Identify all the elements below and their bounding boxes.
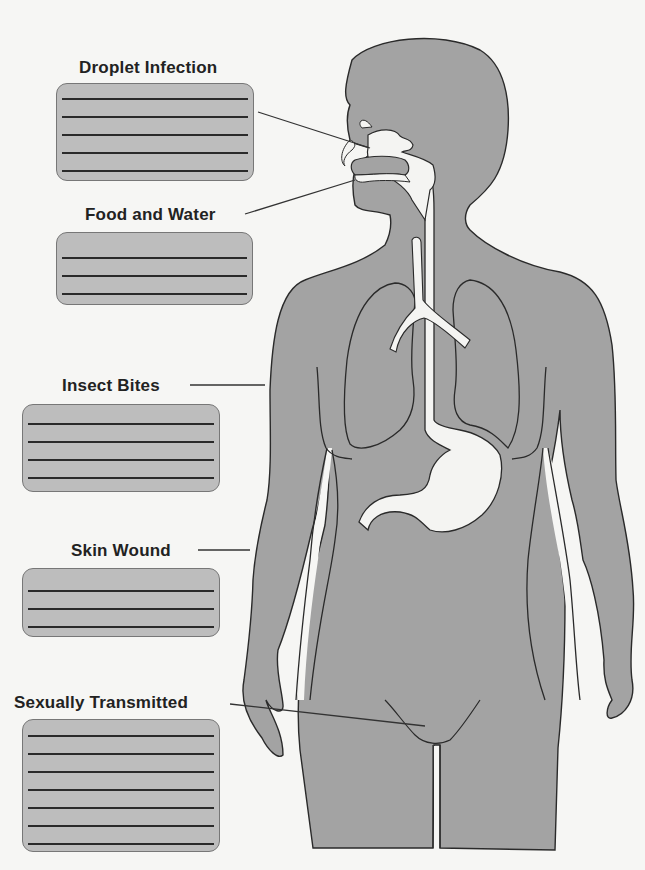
infection-routes-worksheet: Droplet Infection Food and Water Insect … bbox=[0, 0, 645, 870]
answer-line bbox=[28, 423, 214, 425]
answer-line bbox=[28, 843, 214, 845]
label-insect-bites: Insect Bites bbox=[62, 376, 160, 396]
answer-line bbox=[62, 152, 248, 154]
answer-line bbox=[62, 170, 248, 172]
pointer-food bbox=[245, 180, 355, 214]
answer-line bbox=[28, 807, 214, 809]
label-skin-wound: Skin Wound bbox=[71, 541, 171, 561]
answer-line bbox=[28, 735, 214, 737]
answer-box-droplet-infection[interactable] bbox=[56, 83, 254, 181]
answer-line bbox=[28, 608, 214, 610]
mouth-opening bbox=[355, 174, 410, 183]
answer-line bbox=[62, 98, 248, 100]
answer-line bbox=[28, 626, 214, 628]
tongue-palate bbox=[351, 156, 409, 175]
answer-line bbox=[28, 789, 214, 791]
answer-line bbox=[28, 771, 214, 773]
answer-line bbox=[28, 825, 214, 827]
answer-line bbox=[28, 590, 214, 592]
answer-line bbox=[28, 459, 214, 461]
label-droplet-infection: Droplet Infection bbox=[79, 58, 217, 78]
answer-box-sexually-transmitted[interactable] bbox=[22, 719, 220, 852]
answer-box-insect-bites[interactable] bbox=[22, 404, 220, 492]
label-sexually-transmitted: Sexually Transmitted bbox=[14, 693, 188, 713]
answer-line bbox=[62, 275, 247, 277]
answer-box-skin-wound[interactable] bbox=[22, 568, 220, 637]
answer-line bbox=[62, 257, 247, 259]
answer-line bbox=[62, 293, 247, 295]
answer-line bbox=[28, 753, 214, 755]
answer-line bbox=[62, 116, 248, 118]
answer-line bbox=[28, 441, 214, 443]
label-food-and-water: Food and Water bbox=[85, 205, 216, 225]
answer-box-food-and-water[interactable] bbox=[56, 232, 253, 305]
answer-line bbox=[62, 134, 248, 136]
answer-line bbox=[28, 477, 214, 479]
